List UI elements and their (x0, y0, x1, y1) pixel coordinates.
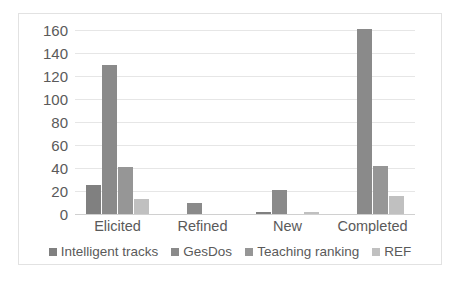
bar-new-series-3[interactable] (304, 212, 319, 214)
legend-swatch-icon (49, 248, 57, 256)
bar-slot (288, 30, 304, 214)
y-axis-tick-label: 140 (43, 46, 68, 61)
y-axis-tick-label: 20 (51, 184, 68, 199)
bar-elicited-series-3[interactable] (134, 199, 149, 214)
y-axis-tick-label: 100 (43, 92, 68, 107)
bar-completed-series-1[interactable] (357, 29, 372, 214)
legend-label: REF (384, 245, 411, 259)
bar-slot (102, 30, 118, 214)
bar-slot (134, 30, 150, 214)
y-axis-tick-label: 40 (51, 161, 68, 176)
legend-swatch-icon (171, 248, 179, 256)
legend-label: GesDos (183, 245, 232, 259)
legend-label: Teaching ranking (257, 245, 359, 259)
y-axis-tick-label: 120 (43, 69, 68, 84)
bar-refined-series-1[interactable] (187, 203, 202, 215)
x-axis-labels: ElicitedRefinedNewCompleted (75, 218, 415, 240)
bar-slot (256, 30, 272, 214)
y-axis-tick-label: 60 (51, 138, 68, 153)
gridline-0 (75, 214, 415, 215)
bar-group-completed (330, 30, 415, 214)
bars-layer (75, 30, 415, 214)
y-axis-tick-label: 80 (51, 115, 68, 130)
bar-slot (357, 30, 373, 214)
chart-legend: Intelligent tracksGesDosTeaching ranking… (19, 245, 441, 259)
plot-area: 020406080100120140160 (75, 30, 415, 214)
legend-label: Intelligent tracks (61, 245, 159, 259)
bar-slot (304, 30, 320, 214)
bar-slot (171, 30, 187, 214)
bar-new-series-0[interactable] (256, 212, 271, 214)
x-axis-tick-label-new: New (273, 218, 302, 235)
bar-group-new (245, 30, 330, 214)
legend-swatch-icon (372, 248, 380, 256)
chart-container: 020406080100120140160 ElicitedRefinedNew… (18, 13, 442, 265)
y-axis-tick-label: 160 (43, 23, 68, 38)
bar-completed-series-3[interactable] (389, 196, 404, 214)
bar-group-refined (160, 30, 245, 214)
bar-group-elicited (75, 30, 160, 214)
bar-elicited-series-0[interactable] (86, 185, 101, 214)
bar-slot (219, 30, 235, 214)
bar-slot (86, 30, 102, 214)
x-axis-tick-label-elicited: Elicited (94, 218, 141, 235)
bar-slot (272, 30, 288, 214)
legend-item-intelligent-tracks[interactable]: Intelligent tracks (49, 245, 159, 259)
bar-slot (341, 30, 357, 214)
x-axis-tick-label-completed: Completed (337, 218, 407, 235)
bar-slot (118, 30, 134, 214)
bar-elicited-series-2[interactable] (118, 167, 133, 214)
legend-item-teaching-ranking[interactable]: Teaching ranking (245, 245, 359, 259)
legend-item-gesdos[interactable]: GesDos (171, 245, 232, 259)
x-axis-tick-label-refined: Refined (178, 218, 228, 235)
legend-swatch-icon (245, 248, 253, 256)
bar-elicited-series-1[interactable] (102, 65, 117, 215)
bar-slot (187, 30, 203, 214)
y-axis-tick-label: 0 (60, 207, 68, 222)
bar-slot (389, 30, 405, 214)
bar-completed-series-2[interactable] (373, 166, 388, 214)
bar-slot (203, 30, 219, 214)
legend-item-ref[interactable]: REF (372, 245, 411, 259)
bar-slot (373, 30, 389, 214)
bar-new-series-1[interactable] (272, 190, 287, 214)
